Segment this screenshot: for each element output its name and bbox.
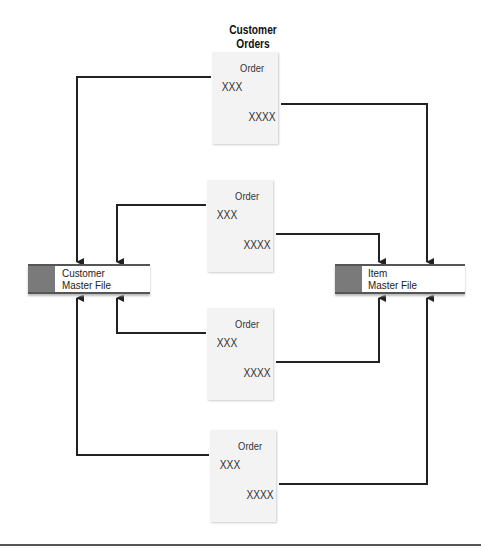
order-label: Order — [235, 190, 259, 202]
order-document-1: Order XXX XXXX — [212, 52, 278, 144]
store-label-line1: Customer — [62, 267, 111, 279]
customer-master-file: Customer Master File — [28, 264, 150, 294]
order-line1: XXX — [220, 458, 240, 472]
store-label: Item Master File — [368, 267, 417, 291]
order-line2: XXXX — [243, 366, 270, 380]
order-label: Order — [238, 440, 262, 452]
data-store-block — [28, 266, 55, 292]
item-master-file: Item Master File — [335, 264, 465, 294]
store-label: Customer Master File — [62, 267, 111, 291]
diagram-canvas: Customer Orders Order XXX XXXX Order XXX… — [0, 0, 481, 549]
order-line2: XXXX — [246, 488, 273, 502]
title-line-1: Customer — [223, 23, 283, 37]
data-store-block — [335, 266, 362, 292]
order-line1: XXX — [222, 80, 242, 94]
store-label-line2: Master File — [368, 279, 417, 291]
order-line2: XXXX — [248, 110, 275, 124]
title-line-2: Orders — [223, 37, 283, 51]
diagram-title: Customer Orders — [223, 23, 283, 51]
order-label: Order — [235, 318, 259, 330]
order-line2: XXXX — [243, 238, 270, 252]
order-document-3: Order XXX XXXX — [207, 308, 273, 400]
order-line1: XXX — [217, 208, 237, 222]
order-document-4: Order XXX XXXX — [210, 430, 276, 522]
store-label-line2: Master File — [62, 279, 111, 291]
order-label: Order — [240, 62, 264, 74]
order-line1: XXX — [217, 336, 237, 350]
bottom-divider — [0, 544, 481, 546]
order-document-2: Order XXX XXXX — [207, 180, 273, 272]
store-label-line1: Item — [368, 267, 417, 279]
